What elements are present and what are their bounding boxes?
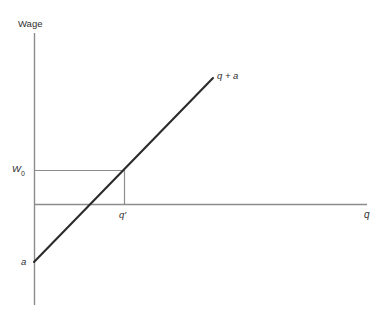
wage-level-label-subscript: 0	[21, 170, 25, 177]
figure-background	[0, 0, 390, 319]
wage-line-figure: Wage q + a W0 a q' q	[0, 0, 390, 319]
figure-canvas	[0, 0, 390, 319]
wage-level-label-text: W	[12, 163, 21, 174]
wage-level-label: W0	[12, 164, 25, 176]
intercept-label: a	[21, 257, 26, 267]
y-axis-title: Wage	[18, 19, 42, 29]
series-label-q-plus-a: q + a	[217, 71, 238, 81]
quantity-marker-label: q'	[119, 210, 126, 220]
x-axis-title: q	[364, 210, 370, 220]
